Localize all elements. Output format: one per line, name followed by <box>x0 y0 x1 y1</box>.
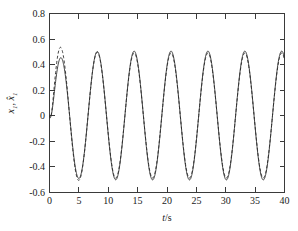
x-tick-marks <box>50 187 285 192</box>
x-tick-label: 5 <box>76 195 81 206</box>
x-tick-label: 10 <box>103 195 113 206</box>
x-tick-label: 20 <box>162 195 172 206</box>
x-tick-label: 0 <box>47 195 52 206</box>
y-tick-marks <box>50 14 55 193</box>
x-tick-label: 15 <box>133 195 143 206</box>
y-tick-label: -0.4 <box>29 161 45 172</box>
y-tick-label: -0.2 <box>29 136 45 147</box>
x-tick-marks-top <box>79 14 255 19</box>
x-tick-labels: 0 5 10 15 20 25 30 35 40 <box>47 195 290 206</box>
y-tick-labels: 0.8 0.6 0.4 0.2 0 -0.2 -0.4 -0.6 <box>29 8 45 198</box>
y-tick-label: 0.6 <box>33 34 46 45</box>
x-tick-label: 40 <box>280 195 290 206</box>
y-tick-label: 0.8 <box>33 8 46 19</box>
svg-text:x1, x̂1: x1, x̂1 <box>5 93 19 115</box>
x-axis-title-unit: /s <box>165 212 172 223</box>
x-tick-label: 35 <box>250 195 260 206</box>
x-axis-title: t/s <box>162 212 172 223</box>
y-tick-label: 0.4 <box>33 59 46 70</box>
y-axis-title: x1, x̂1 <box>5 93 19 115</box>
x-tick-label: 30 <box>221 195 231 206</box>
x-tick-label: 25 <box>191 195 201 206</box>
oscillation-line-chart: 0 5 10 15 20 25 30 35 40 0.8 0.6 0.4 0.2… <box>0 0 298 231</box>
plot-frame <box>50 14 285 193</box>
y-tick-label: -0.6 <box>29 187 45 198</box>
chart-figure: 0 5 10 15 20 25 30 35 40 0.8 0.6 0.4 0.2… <box>0 0 298 231</box>
y-tick-label: 0.2 <box>33 85 46 96</box>
y-tick-label: 0 <box>40 110 45 121</box>
